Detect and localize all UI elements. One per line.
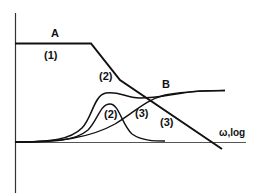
label-region-3-right: (3) [160,117,173,128]
curve-b [15,91,225,143]
label-region-3-left: (3) [135,108,148,119]
label-region-2-lower: (2) [104,109,117,120]
label-region-1: (1) [44,50,57,61]
label-b: B [162,79,170,90]
label-region-2-upper: (2) [99,71,112,82]
diagram-canvas [0,0,261,193]
label-a: A [51,28,59,39]
x-axis-label: ω,log [219,128,245,138]
curve-3 [15,91,225,143]
